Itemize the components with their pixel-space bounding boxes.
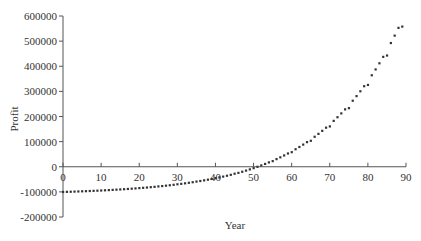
data-point	[188, 182, 190, 184]
data-point	[317, 133, 319, 135]
data-point	[173, 184, 175, 186]
data-point	[340, 112, 342, 114]
y-tick-label: 200000	[24, 111, 58, 123]
data-point	[222, 176, 224, 178]
data-point	[119, 188, 121, 190]
data-point	[237, 172, 239, 174]
data-point	[226, 175, 228, 177]
data-point	[66, 191, 68, 193]
x-tick-label: 10	[96, 171, 108, 183]
data-point	[363, 85, 365, 87]
y-axis: 6000005000004000003000002000001000000-10…	[20, 10, 63, 223]
data-point	[279, 156, 281, 158]
data-point	[192, 181, 194, 183]
data-point	[348, 107, 350, 109]
data-point	[165, 185, 167, 187]
x-axis-label: Year	[225, 219, 246, 231]
data-point	[195, 180, 197, 182]
y-tick-label: -200000	[20, 211, 57, 223]
data-point	[100, 189, 102, 191]
y-axis-label: Profit	[8, 106, 20, 131]
data-point	[89, 190, 91, 192]
profit-chart: 6000005000004000003000002000001000000-10…	[0, 0, 421, 241]
y-tick-label: -100000	[20, 186, 57, 198]
data-point	[298, 146, 300, 148]
data-point	[272, 160, 274, 162]
data-point	[241, 171, 243, 173]
y-tick-label: 500000	[24, 35, 58, 47]
data-point	[104, 189, 106, 191]
data-point	[123, 188, 125, 190]
data-point	[112, 189, 114, 191]
x-tick-label: 0	[60, 171, 66, 183]
data-point	[352, 100, 354, 102]
x-tick-label: 70	[324, 171, 336, 183]
data-point	[329, 125, 331, 127]
y-tick-label: 400000	[24, 60, 58, 72]
data-point	[344, 108, 346, 110]
data-point	[134, 187, 136, 189]
data-point	[325, 127, 327, 129]
data-point	[169, 184, 171, 186]
x-tick-label: 80	[362, 171, 374, 183]
y-tick-label: 0	[52, 161, 58, 173]
data-point	[371, 74, 373, 76]
data-point	[138, 187, 140, 189]
y-tick-label: 600000	[24, 10, 58, 22]
data-point	[306, 141, 308, 143]
data-point	[390, 42, 392, 44]
data-point	[249, 168, 251, 170]
data-point	[291, 151, 293, 153]
data-point	[127, 188, 129, 190]
data-point	[203, 179, 205, 181]
data-point	[260, 164, 262, 166]
data-point	[310, 140, 312, 142]
data-points	[62, 25, 403, 193]
data-point	[161, 185, 163, 187]
data-point	[73, 191, 75, 193]
data-point	[96, 190, 98, 192]
data-point	[264, 163, 266, 165]
x-tick-label: 30	[172, 171, 184, 183]
data-point	[314, 136, 316, 138]
data-point	[62, 191, 64, 193]
data-point	[77, 190, 79, 192]
data-point	[294, 148, 296, 150]
data-point	[207, 179, 209, 181]
data-point	[184, 182, 186, 184]
data-point	[321, 130, 323, 132]
data-point	[142, 187, 144, 189]
data-point	[218, 176, 220, 178]
data-point	[394, 35, 396, 37]
data-point	[355, 95, 357, 97]
data-point	[214, 177, 216, 179]
data-point	[115, 189, 117, 191]
data-point	[150, 186, 152, 188]
data-point	[180, 183, 182, 185]
y-tick-label: 100000	[24, 136, 58, 148]
data-point	[92, 190, 94, 192]
data-point	[382, 56, 384, 58]
data-point	[230, 174, 232, 176]
data-point	[367, 84, 369, 86]
data-point	[211, 178, 213, 180]
data-point	[108, 189, 110, 191]
data-point	[85, 190, 87, 192]
x-tick-label: 60	[286, 171, 298, 183]
data-point	[275, 158, 277, 160]
data-point	[146, 186, 148, 188]
data-point	[131, 188, 133, 190]
data-point	[401, 25, 403, 27]
data-point	[283, 154, 285, 156]
x-tick-label: 20	[134, 171, 146, 183]
data-point	[176, 183, 178, 185]
data-point	[336, 116, 338, 118]
data-point	[234, 173, 236, 175]
data-point	[375, 68, 377, 70]
x-axis: 0102030405060708090	[60, 163, 412, 183]
x-tick-label: 90	[401, 171, 413, 183]
data-point	[253, 167, 255, 169]
data-point	[157, 185, 159, 187]
x-tick-label: 50	[248, 171, 260, 183]
data-point	[302, 144, 304, 146]
